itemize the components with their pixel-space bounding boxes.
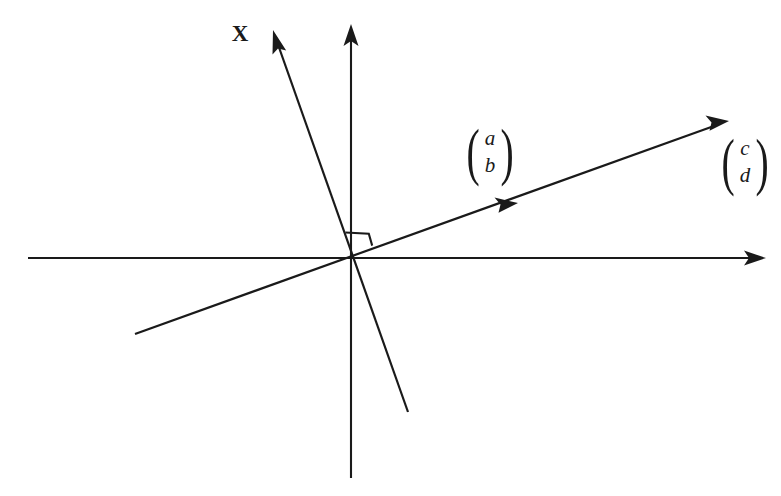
vector-cd-top: c: [740, 135, 749, 162]
paren-open-icon: (: [466, 126, 479, 178]
horizontal-axis: [28, 251, 766, 266]
x-direction-line: [273, 30, 409, 412]
ab-direction-line: [135, 116, 729, 335]
paren-open-icon: (: [721, 136, 734, 188]
vector-cd-bottom: d: [740, 162, 751, 189]
vector-ab-top: a: [485, 125, 496, 152]
vector-projection-diagram: X ( a b ) ( c d ): [0, 0, 781, 496]
x-line-segment: [279, 46, 409, 412]
column-vector-ab: ( a b ): [462, 125, 517, 179]
diagram-canvas: [0, 0, 781, 496]
ab-line-segment: [135, 126, 714, 334]
vector-ab-bottom: b: [485, 152, 496, 179]
column-vector-ab-entries: a b: [482, 125, 499, 179]
paren-close-icon: ): [755, 136, 768, 188]
column-vector-cd-entries: c d: [737, 135, 754, 189]
x-vector-label: X: [232, 22, 249, 45]
column-vector-cd: ( c d ): [717, 135, 772, 189]
paren-close-icon: ): [500, 126, 513, 178]
